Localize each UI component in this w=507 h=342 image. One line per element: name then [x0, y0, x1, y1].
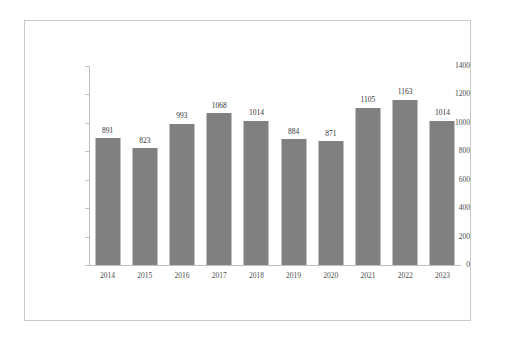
- bar-slot: 871: [312, 66, 349, 265]
- y-axis-tick: [85, 265, 89, 266]
- bar-value-label: 1014: [435, 109, 450, 117]
- x-axis-category-label: 2016: [163, 272, 200, 280]
- bar-value-label: 871: [325, 130, 336, 138]
- x-axis-line: [89, 265, 461, 266]
- bar-slot: 1163: [387, 66, 424, 265]
- x-axis-category-label: 2020: [312, 272, 349, 280]
- bar-value-label: 1014: [249, 109, 264, 117]
- bar-value-label: 1068: [212, 102, 227, 110]
- bar-value-label: 891: [102, 127, 113, 135]
- bar[interactable]: [393, 100, 418, 265]
- x-axis-category-label: 2015: [126, 272, 163, 280]
- bar-value-label: 1163: [398, 88, 413, 96]
- bar[interactable]: [281, 139, 306, 265]
- x-axis-category-label: 2014: [89, 272, 126, 280]
- plot-area: 0200400600800100012001400 89182399310681…: [25, 21, 470, 320]
- x-axis-category-label: 2023: [424, 272, 461, 280]
- x-axis-category-label: 2021: [349, 272, 386, 280]
- x-axis-category-label: 2018: [238, 272, 275, 280]
- bar-slot: 884: [275, 66, 312, 265]
- bar-slot: 1105: [349, 66, 386, 265]
- bar[interactable]: [355, 108, 380, 265]
- x-axis-category-label: 2019: [275, 272, 312, 280]
- bar-slot: 993: [163, 66, 200, 265]
- bar[interactable]: [207, 113, 232, 265]
- chart-frame: 0200400600800100012001400 89182399310681…: [24, 20, 471, 321]
- bar-slot: 1068: [201, 66, 238, 265]
- bar-slot: 1014: [238, 66, 275, 265]
- bar[interactable]: [244, 121, 269, 265]
- bar-slot: 823: [126, 66, 163, 265]
- bar[interactable]: [95, 138, 120, 265]
- bar[interactable]: [430, 121, 455, 265]
- bar-value-label: 1105: [361, 96, 376, 104]
- bar[interactable]: [169, 124, 194, 265]
- bar[interactable]: [132, 148, 157, 265]
- bar[interactable]: [318, 141, 343, 265]
- bar-value-label: 993: [176, 112, 187, 120]
- bars-layer: 89182399310681014884871110511631014: [89, 66, 461, 265]
- bar-slot: 891: [89, 66, 126, 265]
- x-axis-category-label: 2022: [387, 272, 424, 280]
- bar-slot: 1014: [424, 66, 461, 265]
- bar-value-label: 823: [139, 137, 150, 145]
- bar-value-label: 884: [288, 128, 299, 136]
- x-axis-category-label: 2017: [201, 272, 238, 280]
